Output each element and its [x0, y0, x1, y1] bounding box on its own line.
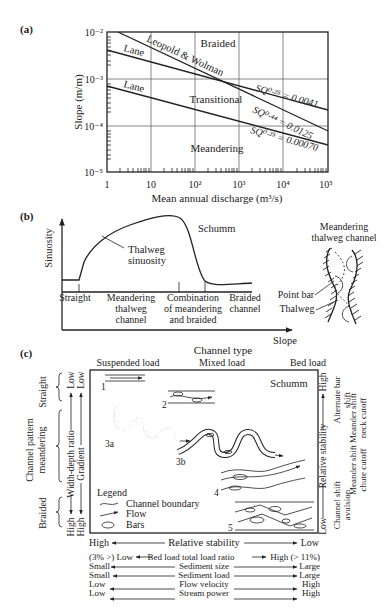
- neck-cutoff-2: neck cutoff: [358, 398, 368, 439]
- pattern-5-braided: 5: [228, 502, 314, 533]
- pattern-number: 4: [214, 488, 219, 498]
- panel-c-diagram: (c) Channel type Suspended load Mixed lo…: [20, 344, 368, 599]
- chute-cutoff-2: chute cutoff: [358, 448, 368, 491]
- scale-left: High: [89, 537, 109, 548]
- legend-item-bars: Bars: [126, 519, 144, 530]
- channel-type-title: Channel type: [194, 344, 252, 356]
- flow-arrow-icon: [100, 512, 118, 516]
- label-eq-0041: SQ⁰·²⁵ = 0.0041: [254, 82, 319, 109]
- y-tick-label: 10⁻⁵: [84, 167, 103, 178]
- region-transitional: Transitional: [190, 93, 243, 105]
- panel-b-label: (b): [20, 210, 34, 223]
- category-dividers: [79, 282, 205, 292]
- meandering-brace: [56, 410, 62, 482]
- panel-c-label: (c): [20, 347, 33, 360]
- axis-end-label: High: [76, 517, 86, 536]
- label-lane-upper: Lane: [122, 42, 145, 58]
- meandering-thalweg-inset: Meandering thalweg channel Point bar Tha…: [278, 221, 377, 324]
- group-channel-pattern: Channel pattern: [24, 418, 35, 482]
- panel-b-y-axis-title: Sinuosity: [43, 227, 54, 267]
- inset-title-1: Meandering: [320, 221, 368, 232]
- thalweg-sinuosity-label-1: Thalweg: [128, 244, 165, 255]
- scale-left: Low: [89, 588, 106, 598]
- axis-title: Relative stability: [318, 423, 328, 488]
- pattern-number: 3a: [105, 439, 115, 449]
- pattern-3b-meander: 3b: [176, 432, 283, 467]
- label-lane-lower: Lane: [122, 78, 145, 94]
- inset-title-2: thalweg channel: [311, 232, 376, 243]
- bottom-scales: High Relative stability Low (3% >) Low B…: [89, 537, 321, 599]
- thalweg-sinuosity-leader: [102, 236, 124, 248]
- pattern-number: 5: [228, 523, 233, 533]
- axis-end-label: High: [66, 517, 76, 536]
- panel-b-diagram: (b) Sinuosity Thalweg sinuosity Schumm S…: [20, 210, 377, 346]
- scale-right: Low: [301, 537, 320, 548]
- group-straight: Straight: [37, 376, 48, 408]
- channel-boundary-icon: [100, 503, 118, 505]
- axis-end-label: High: [318, 372, 328, 391]
- axis-end-label: Low: [76, 371, 86, 389]
- axis-end-label: Low: [66, 371, 76, 389]
- region-meandering: Meandering: [190, 142, 244, 154]
- braided-brace: [56, 497, 62, 527]
- category-combination-2: of meandering: [164, 303, 222, 314]
- pattern-2-alternate-bar: 2: [162, 391, 215, 410]
- figure-canvas: (a) 10⁻² 10⁻³ 10⁻⁴ 10⁻⁵ 1 10 10² 10³ 10⁴: [0, 0, 392, 615]
- category-meandering-3: channel: [115, 314, 146, 325]
- panel-a-y-minor-ticks: [107, 37, 111, 159]
- x-tick-label: 10³: [233, 179, 246, 190]
- pattern-number: 1: [101, 382, 106, 392]
- column-suspended-load: Suspended load: [96, 357, 159, 368]
- avulsion-1: Channel shift: [332, 480, 342, 529]
- x-tick-label: 10⁴: [276, 179, 290, 190]
- schumm-label: Schumm: [198, 223, 235, 234]
- region-braided: Braided: [201, 37, 236, 49]
- slope-axis-title: Slope: [273, 335, 297, 346]
- relative-stability-axis: High Relative stability Low: [318, 372, 328, 534]
- x-tick-label: 1: [105, 179, 110, 190]
- panel-a-y-axis-title: Slope (m/m): [72, 74, 85, 130]
- gradient-axis: Low Gradient High: [76, 371, 86, 536]
- scale-right: High: [302, 588, 321, 598]
- category-braided-1: Braided: [229, 292, 261, 303]
- category-combination-3: and braided: [170, 314, 217, 325]
- neck-cutoff-1: Meander shift: [348, 392, 358, 443]
- panel-a-x-axis-title: Mean annual discharge (m³/s): [151, 192, 282, 205]
- thalweg-sinuosity-label-2: sinuosity: [128, 255, 167, 266]
- pattern-4-wandering: 4: [214, 460, 305, 498]
- category-braided-2: channel: [229, 303, 260, 314]
- pattern-3a-meander: 3a: [105, 405, 190, 449]
- x-tick-label: 10²: [189, 179, 202, 190]
- axis-end-label: Low: [318, 517, 328, 535]
- group-meandering: meandering: [36, 426, 47, 473]
- chute-cutoff-1: Meander shift: [348, 444, 358, 495]
- scale-label: Stream power: [179, 588, 229, 598]
- pattern-number: 2: [162, 400, 167, 410]
- pattern-1-straight: 1: [101, 375, 145, 392]
- alternate-bar-shift-1: Alternate bar: [332, 376, 342, 423]
- legend-title: Legend: [97, 487, 127, 498]
- width-depth-ratio-axis: Low Width-depth ratio High: [66, 371, 76, 536]
- category-combination-1: Combination: [167, 292, 219, 303]
- panel-c-frame: [90, 370, 318, 533]
- column-mixed-load: Mixed load: [199, 357, 245, 368]
- group-braided: Braided: [37, 497, 48, 529]
- panel-a-chart: (a) 10⁻² 10⁻³ 10⁻⁴ 10⁻⁵ 1 10 10² 10³ 10⁴: [20, 23, 333, 205]
- inset-point-bar-label: Point bar: [278, 289, 315, 300]
- pattern-number: 3b: [176, 457, 186, 467]
- avulsion-2: avulsion: [342, 489, 352, 520]
- schumm-source-label: Schumm: [270, 378, 307, 389]
- legend-item-flow: Flow: [126, 508, 147, 519]
- y-tick-label: 10⁻²: [85, 27, 103, 38]
- panel-a-label: (a): [20, 23, 33, 36]
- y-tick-label: 10⁻⁴: [84, 121, 103, 132]
- category-straight: Straight: [59, 292, 91, 303]
- axis-title: Width-depth ratio: [66, 430, 76, 498]
- axis-title: Gradient: [76, 447, 86, 481]
- category-meandering-1: Meandering: [107, 292, 155, 303]
- straight-brace: [56, 373, 62, 401]
- bar-shape-icon: [102, 522, 114, 528]
- category-meandering-2: thalweg: [115, 303, 147, 314]
- panel-c-legend: Legend Channel boundary Flow Bars: [97, 487, 200, 530]
- x-tick-label: 10: [146, 179, 156, 190]
